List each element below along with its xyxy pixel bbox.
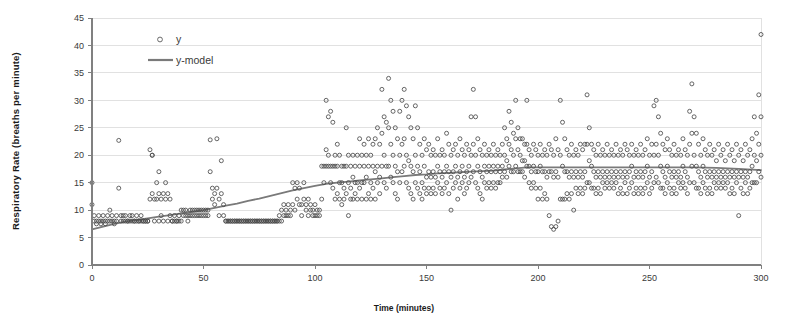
y-tick-label: 30 <box>74 96 84 106</box>
x-tick-label: 50 <box>198 273 208 283</box>
chart-figure: 051015202530354045050100150200250300 yy-… <box>0 0 797 323</box>
y-tick-label: 10 <box>74 205 84 215</box>
x-tick-label: 200 <box>530 273 545 283</box>
x-tick-label: 300 <box>753 273 768 283</box>
y-tick-label: 20 <box>74 150 84 160</box>
chart-background <box>0 0 797 323</box>
legend-label-y: y <box>176 33 182 45</box>
y-tick-label: 45 <box>74 13 84 23</box>
y-tick-label: 5 <box>79 233 84 243</box>
y-tick-label: 35 <box>74 68 84 78</box>
y-tick-label: 15 <box>74 178 84 188</box>
x-tick-label: 150 <box>419 273 434 283</box>
legend-label-y-model: y-model <box>176 54 213 66</box>
y-tick-label: 25 <box>74 123 84 133</box>
x-tick-label: 0 <box>89 273 94 283</box>
y-tick-label: 0 <box>79 260 84 270</box>
x-tick-label: 100 <box>307 273 322 283</box>
respiratory-rate-scatter-chart: 051015202530354045050100150200250300 yy-… <box>0 0 797 323</box>
y-tick-label: 40 <box>74 41 84 51</box>
x-tick-label: 250 <box>642 273 657 283</box>
y-axis-title: Respiratory Rate (breaths per minute) <box>10 52 21 230</box>
x-axis-title: Time (minutes) <box>374 303 434 313</box>
